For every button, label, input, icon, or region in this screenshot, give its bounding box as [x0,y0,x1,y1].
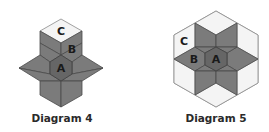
diagram-5: A B C [174,11,258,107]
arm-bottom-right [61,81,82,107]
label-b: B [190,53,198,66]
label-b: B [68,43,76,56]
label-a: A [57,62,66,75]
label-c: C [180,35,188,48]
diagrams-canvas: A B C Diagram 4 A B C Diagram 5 [0,0,269,132]
caption-diagram-4: Diagram 4 [31,112,92,124]
label-c: C [57,25,65,38]
diagram-4: A B C [19,19,103,107]
label-a: A [212,53,221,66]
caption-diagram-5: Diagram 5 [185,112,246,124]
arm-bottom-left [40,81,61,107]
